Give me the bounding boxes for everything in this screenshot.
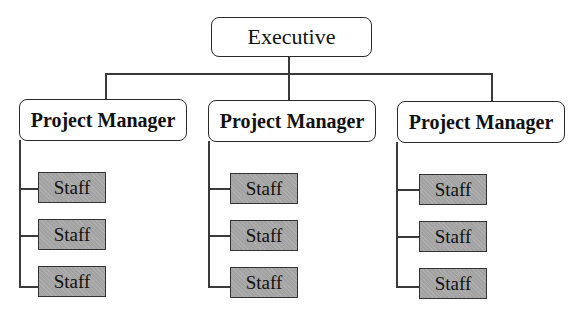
project-manager-node-3[interactable]: Project Manager xyxy=(397,101,565,143)
staff-node[interactable]: Staff xyxy=(230,267,298,298)
manager-3-staff-spine xyxy=(396,142,398,287)
staff-node[interactable]: Staff xyxy=(38,266,106,297)
manager-bus-connector xyxy=(105,73,492,75)
manager-2-up-connector xyxy=(288,73,290,101)
executive-node[interactable]: Executive xyxy=(211,17,372,57)
staff-connector xyxy=(396,286,419,288)
staff-node[interactable]: Staff xyxy=(230,173,298,204)
project-manager-node-1[interactable]: Project Manager xyxy=(19,99,187,141)
staff-node[interactable]: Staff xyxy=(38,219,106,250)
manager-1-up-connector xyxy=(105,73,107,100)
manager-2-staff-spine xyxy=(208,141,210,287)
staff-connector xyxy=(208,286,230,288)
manager-3-up-connector xyxy=(491,73,493,102)
staff-connector xyxy=(208,235,230,237)
staff-node[interactable]: Staff xyxy=(419,221,487,252)
staff-connector xyxy=(208,188,230,190)
staff-node[interactable]: Staff xyxy=(419,174,487,205)
manager-1-staff-spine xyxy=(19,140,21,287)
staff-connector xyxy=(396,189,419,191)
staff-connector xyxy=(19,188,39,190)
staff-connector xyxy=(396,236,419,238)
staff-node[interactable]: Staff xyxy=(419,268,487,299)
staff-connector xyxy=(19,235,39,237)
project-manager-node-2[interactable]: Project Manager xyxy=(208,100,376,142)
staff-connector xyxy=(19,286,39,288)
staff-node[interactable]: Staff xyxy=(38,172,106,203)
exec-down-connector xyxy=(288,57,290,74)
staff-node[interactable]: Staff xyxy=(230,220,298,251)
